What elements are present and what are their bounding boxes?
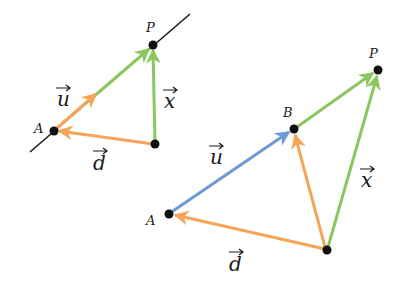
left-diagram: A P u x d xyxy=(30,14,190,175)
vector-x-arrow xyxy=(153,50,155,143)
vector-u-label: u xyxy=(56,85,70,111)
vector-u-arrow xyxy=(170,132,289,213)
vector-x-arrow xyxy=(328,76,377,247)
point-A-label: A xyxy=(145,213,155,228)
point-A-label: A xyxy=(33,121,43,136)
point-A-dot xyxy=(50,127,59,136)
vector-u-label: u xyxy=(209,143,223,169)
point-P-label: P xyxy=(368,46,378,61)
point-B-label: B xyxy=(282,105,293,120)
vector-x-label: x xyxy=(163,87,177,113)
svg-text:u: u xyxy=(210,145,223,169)
right-diagram: A B P u x d xyxy=(145,46,383,276)
point-A-dot xyxy=(165,210,174,219)
svg-text:u: u xyxy=(57,87,70,111)
svg-text:d: d xyxy=(229,252,242,276)
vector-x-label: x xyxy=(360,166,374,192)
point-origin-dot xyxy=(151,140,160,149)
vector-d-arrow xyxy=(175,215,325,249)
point-P-dot xyxy=(149,41,158,50)
vector-d-label: d xyxy=(93,148,107,175)
vector-line-diagram: A P u x d A B P u xyxy=(0,0,409,297)
vector-BP-arrow xyxy=(297,73,373,127)
svg-text:d: d xyxy=(93,151,106,175)
point-P-dot xyxy=(374,66,383,75)
point-P-label: P xyxy=(145,20,155,35)
green-segment-to-P xyxy=(92,49,149,98)
point-origin-dot xyxy=(323,246,332,255)
point-B-dot xyxy=(290,125,299,134)
vector-OB-arrow xyxy=(295,135,325,247)
vector-d-label: d xyxy=(229,249,243,276)
vector-d-arrow xyxy=(59,131,153,144)
